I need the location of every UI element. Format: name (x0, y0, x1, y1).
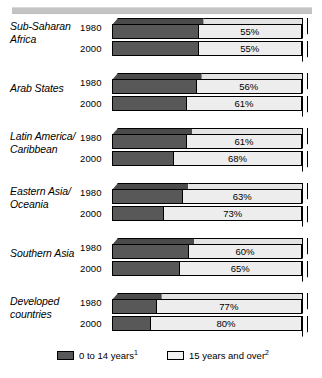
bar-side-face-edge (302, 96, 307, 117)
bar-segment-0-to-14-years (113, 42, 199, 55)
bar-front-face: 80% (112, 316, 302, 331)
bar-front-face: 55% (112, 41, 302, 56)
legend-label-15-years-and-over: 15 years and over2 (189, 349, 269, 361)
bar-front-face: 56% (112, 79, 302, 94)
bar-value-label: 65% (180, 264, 302, 274)
region-label-line-1: Sub-Saharan (10, 20, 82, 33)
stacked-bar: 77% (112, 293, 302, 314)
region-label-line-1: Eastern Asia/ (10, 185, 82, 198)
region-label: Sub-SaharanAfrica (10, 20, 82, 45)
region-label-line-1: Developed (10, 295, 82, 308)
stacked-bar: 55% (112, 18, 302, 39)
stacked-bar: 63% (112, 183, 302, 204)
year-label: 2000 (80, 153, 108, 164)
region-label: Developedcountries (10, 295, 82, 320)
bar-segment-15-years-and-over: 63% (183, 190, 301, 203)
legend-footnote-2: 2 (265, 349, 269, 356)
bar-segment-15-years-and-over: 68% (174, 152, 301, 165)
legend-swatch-dark (57, 351, 74, 360)
bar-segment-0-to-14-years (113, 25, 199, 38)
bar-segment-0-to-14-years (113, 190, 183, 203)
bar-front-face: 61% (112, 134, 302, 149)
bar-value-label: 63% (183, 192, 301, 202)
stacked-bar: 61% (112, 94, 302, 115)
bar-side-face-edge (302, 128, 307, 149)
bar-front-face: 77% (112, 299, 302, 314)
bar-front-face: 68% (112, 151, 302, 166)
bar-side-face (302, 128, 308, 149)
year-label: 1980 (80, 132, 108, 143)
chart-legend: 0 to 14 years1 15 years and over2 (0, 349, 322, 367)
bar-segment-0-to-14-years (113, 135, 187, 148)
bar-segment-0-to-14-years (113, 300, 157, 313)
region-label: Arab States (10, 82, 82, 95)
year-label: 2000 (80, 318, 108, 329)
year-label: 2000 (80, 208, 108, 219)
region-label-line-1: Latin America/ (10, 130, 82, 143)
stacked-bar: 80% (112, 314, 302, 335)
bar-front-face: 61% (112, 96, 302, 111)
bar-side-face-edge (302, 18, 307, 39)
year-label: 2000 (80, 43, 108, 54)
bar-side-face (302, 206, 308, 227)
bar-side-face-edge (302, 151, 307, 172)
year-label: 1980 (80, 187, 108, 198)
bar-side-face (302, 96, 308, 117)
bar-side-face (302, 293, 308, 314)
region-label: Southern Asia (10, 247, 82, 260)
year-label: 1980 (80, 297, 108, 308)
bar-segment-0-to-14-years (113, 262, 180, 275)
bar-segment-15-years-and-over: 55% (199, 42, 302, 55)
bar-side-face-edge (302, 183, 307, 204)
bar-value-label: 77% (157, 302, 301, 312)
bar-segment-0-to-14-years (113, 207, 164, 220)
stacked-bar: 60% (112, 238, 302, 259)
stacked-bar: 68% (112, 149, 302, 170)
bar-segment-15-years-and-over: 61% (187, 135, 301, 148)
legend-swatch-light (167, 351, 184, 360)
bar-side-face (302, 73, 308, 94)
bar-segment-15-years-and-over: 73% (164, 207, 301, 220)
region-label-line-2: countries (10, 308, 82, 321)
year-label: 1980 (80, 77, 108, 88)
bar-segment-0-to-14-years (113, 97, 187, 110)
bar-segment-15-years-and-over: 77% (157, 300, 301, 313)
bar-side-face-edge (302, 206, 307, 227)
bar-side-face (302, 41, 308, 62)
region-label-line-2: Africa (10, 33, 82, 46)
stacked-bar: 61% (112, 128, 302, 149)
bar-segment-15-years-and-over: 56% (197, 80, 301, 93)
region-label-line-2: Oceania (10, 198, 82, 211)
bar-front-face: 60% (112, 244, 302, 259)
bar-value-label: 55% (199, 27, 302, 37)
bar-segment-15-years-and-over: 60% (189, 245, 301, 258)
bar-side-face (302, 238, 308, 259)
stacked-bar: 73% (112, 204, 302, 225)
bar-segment-0-to-14-years (113, 245, 189, 258)
legend-item-0-to-14-years: 0 to 14 years1 (57, 349, 138, 361)
year-label: 2000 (80, 98, 108, 109)
bar-segment-15-years-and-over: 61% (187, 97, 301, 110)
bar-side-face-edge (302, 293, 307, 314)
bar-side-face-edge (302, 73, 307, 94)
bar-front-face: 73% (112, 206, 302, 221)
region-label-line-1: Arab States (10, 82, 82, 95)
age-structure-stacked-bar-chart: Sub-SaharanAfrica198055%200055%Arab Stat… (0, 0, 322, 378)
year-label: 2000 (80, 263, 108, 274)
header-rule (12, 7, 312, 14)
legend-label-0-to-14-years: 0 to 14 years1 (79, 349, 138, 361)
bar-side-face (302, 183, 308, 204)
legend-footnote-1: 1 (134, 349, 138, 356)
bar-side-face-edge (302, 261, 307, 282)
bar-side-face-edge (302, 238, 307, 259)
bar-side-face (302, 261, 308, 282)
region-label-line-2: Caribbean (10, 143, 82, 156)
bar-value-label: 56% (197, 82, 301, 92)
bar-side-face (302, 316, 308, 337)
bar-front-face: 55% (112, 24, 302, 39)
bar-value-label: 60% (189, 247, 301, 257)
stacked-bar: 65% (112, 259, 302, 280)
bar-segment-15-years-and-over: 65% (180, 262, 302, 275)
region-label: Eastern Asia/Oceania (10, 185, 82, 210)
bar-side-face (302, 151, 308, 172)
